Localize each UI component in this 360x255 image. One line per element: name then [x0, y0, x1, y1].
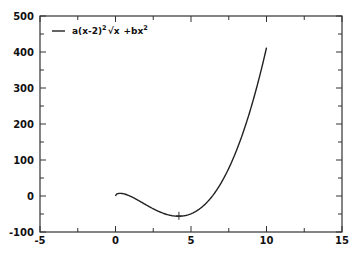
plot-frame — [40, 16, 342, 232]
y-tick-label: 200 — [13, 119, 34, 130]
legend: a(x-2)2√x+bx2 — [52, 24, 148, 36]
x-tick-label: 15 — [335, 235, 349, 246]
axis-labels: -5051015-1000100200300400500 — [9, 11, 349, 246]
plus-marker — [176, 212, 182, 220]
x-tick-label: 5 — [188, 235, 195, 246]
axis-ticks — [40, 16, 342, 232]
x-tick-label: 0 — [112, 235, 119, 246]
y-tick-label: -100 — [9, 227, 34, 238]
y-tick-label: 0 — [27, 191, 34, 202]
legend-entry: a(x-2)2√x+bx2 — [72, 24, 148, 36]
x-tick-label: -5 — [34, 235, 45, 246]
y-tick-label: 400 — [13, 47, 34, 58]
x-tick-label: 10 — [260, 235, 274, 246]
data-line — [116, 48, 267, 217]
y-tick-label: 300 — [13, 83, 34, 94]
y-tick-label: 500 — [13, 11, 34, 22]
chart: -5051015-1000100200300400500 a(x-2)2√x+b… — [0, 0, 360, 255]
y-tick-label: 100 — [13, 155, 34, 166]
